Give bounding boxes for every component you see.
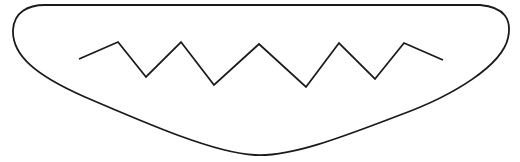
line-drawing xyxy=(0,0,520,162)
zigzag-line xyxy=(79,42,443,87)
outline-shape xyxy=(13,5,509,155)
